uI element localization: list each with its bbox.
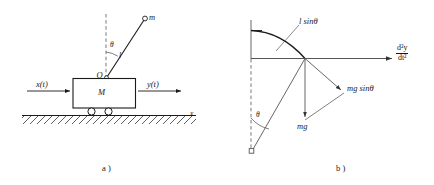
cart-wheel-left [88, 108, 95, 115]
acceleration-denominator: dt² [396, 54, 408, 63]
label-input-xt: x(t) [36, 80, 48, 89]
caption-panel-a: a ) [102, 163, 111, 173]
physics-figure: m O l θ M x(t) y(t) x a ) l sinθ θ mg mg… [0, 0, 434, 185]
tangential-force-vector [305, 59, 341, 91]
swing-arc [251, 31, 305, 59]
angle-arc-a [106, 52, 118, 56]
label-angle-theta-b: θ [256, 111, 260, 119]
pivot-point-b [249, 149, 254, 154]
cart-wheel-right [105, 108, 112, 115]
ground-hatching [22, 116, 196, 124]
panel-a-graphics [22, 14, 196, 124]
label-arc-length-lsin: l sinθ [299, 17, 318, 26]
label-bob-mass-m: m [149, 13, 155, 22]
label-rod-length-l: l [119, 52, 121, 60]
label-pivot-o: O [97, 71, 103, 80]
label-weight-mg: mg [297, 122, 307, 131]
pendulum-bob-m [143, 16, 148, 21]
label-angle-theta-a: θ [110, 41, 114, 49]
pendulum-rod-b [252, 59, 305, 152]
force-triangle-closing-line [305, 93, 344, 120]
angle-arc-b [251, 118, 269, 129]
label-output-yt: y(t) [147, 80, 159, 89]
caption-panel-b: b ) [336, 163, 345, 173]
label-cart-mass-m: M [98, 88, 105, 97]
label-tangential-force-mgsin: mg sinθ [347, 84, 374, 93]
label-ground-axis-x: x [190, 110, 193, 118]
label-acceleration-fraction: d²y dt² [396, 44, 408, 63]
